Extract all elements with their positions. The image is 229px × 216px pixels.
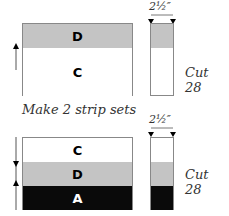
band-c: C — [23, 138, 132, 162]
bottom-cut-label: Cut 28 — [185, 167, 229, 197]
arrow-down-icon — [13, 161, 19, 167]
band-label: C — [73, 143, 83, 158]
band-label: C — [73, 65, 83, 80]
band-label: A — [72, 191, 82, 206]
top-dimension-label: 2½″ — [149, 0, 171, 13]
strip-segment-a — [151, 186, 173, 210]
strip-segment-d — [151, 24, 173, 48]
arrow-up-icon — [13, 180, 19, 186]
caption: Make 2 strip sets — [22, 102, 136, 117]
band-c: C — [23, 48, 132, 96]
band-label: D — [72, 167, 83, 182]
band-d: D — [23, 24, 132, 48]
top-cut-strip — [150, 23, 174, 96]
top-strip-set: D C — [22, 23, 133, 96]
band-label: D — [72, 29, 83, 44]
arrow-up-icon — [13, 43, 19, 49]
band-d: D — [23, 162, 132, 186]
top-cut-label: Cut 28 — [185, 65, 229, 95]
bottom-cut-strip — [150, 137, 174, 210]
strip-segment-d — [151, 162, 173, 186]
bottom-dimension-label: 2½″ — [149, 113, 171, 126]
bottom-strip-set: C D A — [22, 137, 133, 210]
band-a: A — [23, 186, 132, 210]
